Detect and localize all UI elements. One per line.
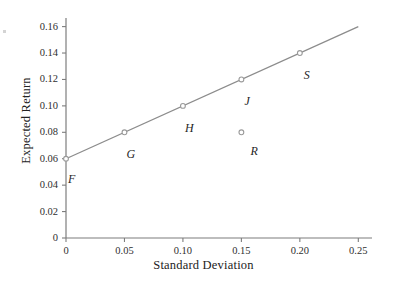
y-tick-label-8: 0.16 xyxy=(18,21,58,32)
y-tick-label-6: 0.12 xyxy=(18,74,58,85)
data-point-label-F: F xyxy=(68,173,75,185)
data-point-label-R: R xyxy=(250,145,257,157)
y-tick-label-0: 0 xyxy=(18,233,58,244)
data-point-label-S: S xyxy=(304,69,310,81)
x-tick-label-4: 0.20 xyxy=(291,246,309,257)
y-tick-label-1: 0.02 xyxy=(18,206,58,217)
plot-area xyxy=(0,0,407,287)
y-tick-label-3: 0.06 xyxy=(18,153,58,164)
chart-container: Expected Return Standard Deviation 00.02… xyxy=(0,0,407,287)
data-point-J xyxy=(239,77,244,82)
data-point-label-J: J xyxy=(244,95,249,107)
data-point-F xyxy=(64,156,69,161)
y-axis-title: Expected Return xyxy=(19,41,34,201)
x-tick-label-1: 0.05 xyxy=(115,246,133,257)
x-axis-title: Standard Deviation xyxy=(0,258,407,273)
y-tick-label-5: 0.10 xyxy=(18,101,58,112)
data-point-S xyxy=(297,51,302,56)
x-tick-label-3: 0.15 xyxy=(232,246,250,257)
data-point-label-G: G xyxy=(126,148,135,160)
data-point-label-H: H xyxy=(185,122,194,134)
data-point-G xyxy=(122,130,127,135)
x-tick-label-0: 0 xyxy=(63,246,68,257)
data-point-H xyxy=(181,103,186,108)
x-tick-label-2: 0.10 xyxy=(174,246,192,257)
data-point-R xyxy=(239,130,244,135)
y-tick-label-7: 0.14 xyxy=(18,48,58,59)
series-line-0 xyxy=(66,27,358,159)
y-tick-label-4: 0.08 xyxy=(18,127,58,138)
y-tick-label-2: 0.04 xyxy=(18,180,58,191)
x-tick-label-5: 0.25 xyxy=(349,246,367,257)
